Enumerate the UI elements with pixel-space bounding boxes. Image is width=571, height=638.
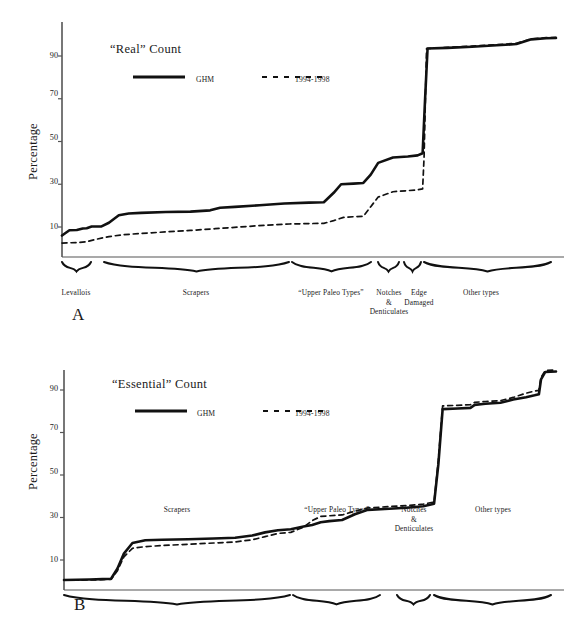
- group-brace: [292, 262, 371, 271]
- group-brace: [62, 262, 91, 271]
- panel-a-group-label-edge-damaged: EdgeDamaged: [398, 288, 440, 307]
- group-brace: [293, 595, 380, 604]
- series-line-ghm: [62, 38, 556, 236]
- group-brace: [397, 595, 430, 604]
- panel-a-group-label-other-types: Other types: [450, 288, 512, 298]
- group-brace: [104, 262, 289, 271]
- panel-b-group-label-other-types: Other types: [462, 505, 524, 515]
- panel-b-group-label-scrapers: Scrapers: [147, 505, 207, 515]
- group-brace: [64, 595, 290, 604]
- panel-b-group-label-notches-denticulates: Notches&Denticulates: [380, 505, 448, 534]
- panel-b-essential-count: Percentage 90 70 50 30 10 “Essential” Co…: [0, 320, 571, 638]
- group-brace: [424, 262, 551, 271]
- group-brace: [404, 262, 421, 271]
- group-brace: [434, 595, 551, 604]
- panel-a-group-label-scrapers: Scrapers: [166, 288, 226, 298]
- panel-a-plot: [0, 0, 571, 320]
- panel-b-plot: [0, 320, 571, 638]
- panel-a-group-label-levallois: Levallois: [46, 288, 106, 298]
- series-line-1994-1998: [64, 370, 556, 580]
- panel-a-real-count: Percentage 90 70 50 30 10 “Real” Count G…: [0, 0, 571, 320]
- panel-b-group-label-upper-paleo-types: “Upper Paleo Types”: [281, 505, 393, 515]
- series-line-ghm: [64, 372, 556, 580]
- group-brace: [378, 262, 399, 271]
- panel-b-letter: B: [74, 595, 86, 615]
